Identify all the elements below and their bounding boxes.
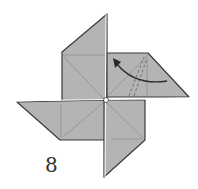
left-vane [17, 100, 107, 140]
step-number: 8 [45, 155, 58, 175]
bottom-vane [104, 100, 145, 177]
pinwheel-diagram [0, 0, 198, 189]
top-vane [62, 14, 107, 101]
right-vane [107, 53, 189, 97]
